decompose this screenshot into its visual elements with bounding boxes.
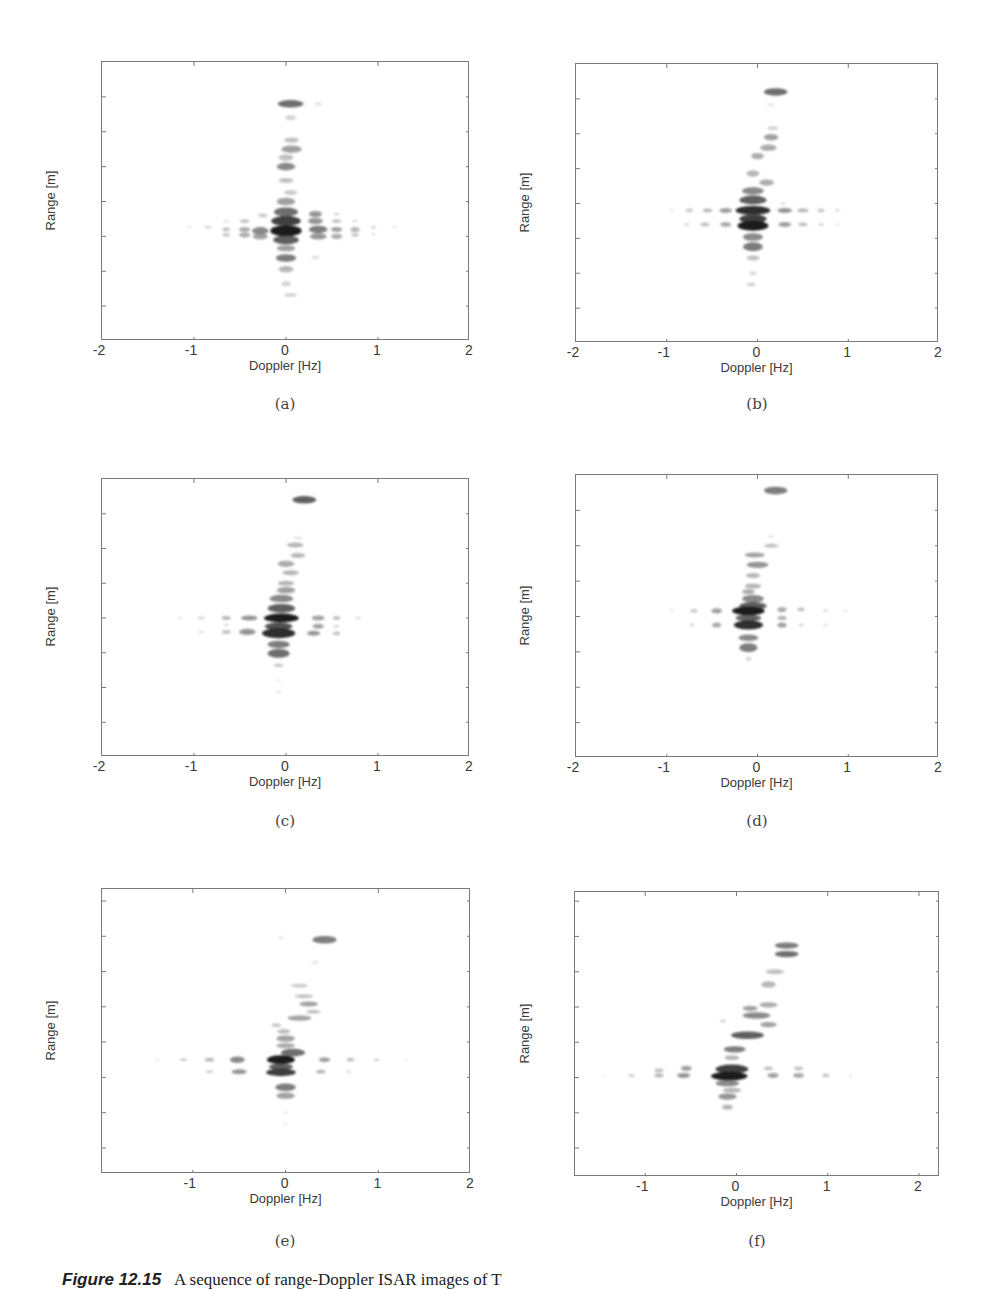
x-tick-label: 1 (373, 342, 381, 358)
scatter-blob (392, 226, 397, 229)
scatter-blob (780, 202, 785, 205)
scatter-blob (278, 100, 304, 108)
scatter-blob (282, 570, 299, 575)
x-tick-label: -1 (183, 342, 199, 358)
x-tick-label: 0 (281, 1175, 289, 1191)
x-tick-label: -1 (656, 759, 672, 775)
x-tick-label: 0 (732, 1178, 740, 1194)
scatter-blob (352, 220, 358, 223)
scatter-blob (764, 88, 788, 96)
scatter-blob (711, 1072, 748, 1081)
scatter-blob (287, 543, 304, 548)
subfigure-caption: (b) (727, 395, 787, 413)
scatter-blob (278, 936, 284, 939)
scatter-blob (738, 635, 758, 641)
x-tick-label: -2 (91, 758, 107, 774)
scatter-blob (331, 227, 342, 232)
scatter-blob (684, 223, 689, 226)
scatter-blob (746, 657, 751, 661)
scatter-blob (712, 622, 721, 627)
x-axis-label: Doppler [Hz] (225, 774, 345, 789)
scatter-blob (279, 178, 294, 183)
scatter-blob (798, 624, 803, 627)
scatter-blob (276, 1043, 295, 1048)
scatter-blob (742, 187, 764, 195)
scatter-blob (736, 615, 761, 621)
scatter-blob (823, 610, 828, 613)
plot-area (101, 888, 470, 1173)
scatter-blob (725, 1055, 740, 1060)
scatter-blob (277, 1029, 290, 1034)
scatter-blob (333, 616, 340, 620)
scatter-blob (835, 223, 839, 226)
scatter-blob (316, 1070, 325, 1074)
x-axis-label: Doppler [Hz] (226, 1191, 346, 1206)
plot-area (101, 478, 469, 756)
scatter-blob (777, 208, 792, 213)
plot-area (575, 63, 938, 342)
scatter-blob (794, 1066, 803, 1070)
scatter-blob (277, 679, 281, 682)
scatter-blob (746, 573, 761, 578)
scatter-blob (277, 163, 295, 171)
scatter-blob (312, 936, 336, 944)
scatter-blob (764, 544, 779, 548)
scatter-blob (689, 624, 694, 627)
x-tick-label: 1 (823, 1178, 831, 1194)
x-axis-label: Doppler [Hz] (697, 775, 817, 790)
x-tick-label: 1 (843, 344, 851, 360)
x-tick-label: 2 (466, 1175, 474, 1191)
y-axis-label: Range [m] (517, 993, 532, 1073)
scatter-blob (198, 617, 205, 620)
scatter-blob (759, 1002, 777, 1007)
scatter-blob (312, 256, 319, 259)
scatter-blob (268, 649, 290, 658)
scatter-blob (351, 233, 358, 237)
scatter-blob (187, 226, 192, 229)
scatter-blob (268, 604, 296, 613)
scatter-blob (313, 624, 324, 629)
scatter-blob (277, 587, 295, 593)
x-tick-label: -1 (656, 344, 672, 360)
scatter-blob (669, 610, 674, 613)
x-tick-label: 1 (843, 759, 851, 775)
scatter-blob (273, 235, 299, 244)
scatter-blob (270, 225, 301, 236)
scatter-blob (312, 961, 319, 964)
scatter-blob (768, 535, 773, 538)
x-tick-label: 0 (281, 342, 289, 358)
scatter-blob (284, 138, 299, 143)
x-tick-label: 2 (934, 759, 942, 775)
scatter-blob (346, 1070, 351, 1073)
scatter-blob (723, 1088, 741, 1093)
scatter-blob (239, 227, 250, 232)
x-tick-label: 2 (465, 342, 473, 358)
scatter-blob (739, 643, 757, 652)
scatter-blob (276, 1093, 295, 1099)
scatter-blob (315, 102, 322, 106)
scatter-blob (276, 254, 296, 262)
scatter-blob (309, 226, 327, 234)
subfigure-caption: (d) (727, 812, 787, 830)
scatter-blob (307, 631, 320, 636)
x-tick-label: 0 (281, 758, 289, 774)
scatter-blob (404, 1058, 408, 1061)
scatter-blob (281, 1049, 305, 1057)
scatter-blob (266, 1069, 296, 1077)
scatter-blob (722, 1105, 733, 1110)
scatter-blob (258, 214, 267, 218)
scatter-blob (276, 1035, 295, 1041)
scatter-blob (764, 134, 779, 140)
scatter-blob (628, 1074, 634, 1077)
subfigure-caption: (e) (255, 1232, 315, 1250)
x-tick-label: -1 (183, 758, 199, 774)
scatter-blob (350, 227, 359, 232)
scatter-blob (732, 606, 765, 615)
y-axis-label: Range [m] (43, 160, 58, 240)
scatter-blob (206, 1070, 213, 1073)
scatter-blob (291, 984, 308, 988)
scatter-blob (281, 281, 290, 286)
scatter-blob (743, 233, 763, 241)
scatter-blob (654, 1074, 663, 1078)
scatter-blob (271, 216, 300, 226)
